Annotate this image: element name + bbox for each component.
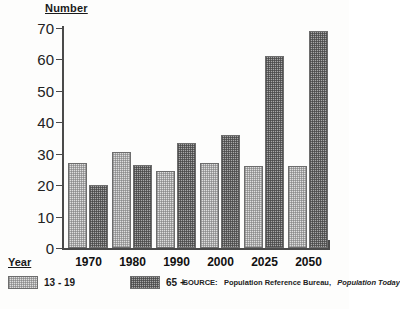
x-axis-line	[62, 248, 330, 250]
x-axis-tick-label: 1990	[155, 255, 199, 269]
y-axis-tick-label: 40	[37, 114, 54, 131]
source-publisher: Population Reference Bureau,	[224, 278, 331, 287]
x-axis-tick-label: 1970	[67, 255, 111, 269]
y-axis-tick	[56, 248, 63, 249]
x-axis-title: Year	[8, 256, 31, 268]
y-axis-tick-label: 10	[37, 208, 54, 225]
x-axis-tick-label: 2050	[287, 255, 331, 269]
y-axis-title: Number	[45, 2, 88, 14]
bar-group	[244, 28, 285, 248]
y-axis-tick-label: 30	[37, 145, 54, 162]
legend-item[interactable]: 13 - 19	[8, 276, 75, 289]
legend-item[interactable]: 65 +	[130, 276, 186, 289]
y-axis-tick-label: 60	[37, 51, 54, 68]
y-axis-tick	[56, 122, 63, 123]
bar[interactable]	[177, 143, 196, 248]
y-axis-tick-label: 20	[37, 177, 54, 194]
source-publication: Population Today	[337, 278, 400, 287]
bar-group	[68, 28, 109, 248]
bar[interactable]	[112, 152, 131, 248]
bar-group	[200, 28, 241, 248]
y-axis-tick	[56, 185, 63, 186]
bar[interactable]	[309, 31, 328, 248]
bar[interactable]	[89, 185, 108, 248]
y-axis-tick-label: 0	[46, 240, 54, 257]
plot-area: 010203040506070	[62, 26, 330, 250]
bar-group	[288, 28, 329, 248]
legend-label: 13 - 19	[44, 277, 75, 288]
light-stipple-swatch	[8, 276, 38, 289]
y-axis-tick	[56, 154, 63, 155]
bar[interactable]	[200, 163, 219, 248]
bar[interactable]	[221, 135, 240, 248]
bar[interactable]	[288, 166, 307, 248]
y-axis-tick-label: 70	[37, 20, 54, 37]
y-axis-tick-label: 50	[37, 82, 54, 99]
y-axis-tick	[56, 217, 63, 218]
bar-group	[112, 28, 153, 248]
bar[interactable]	[265, 56, 284, 248]
source-prefix: SOURCE:	[183, 278, 218, 287]
y-axis-tick	[56, 91, 63, 92]
x-axis-tick-label: 2000	[199, 255, 243, 269]
x-axis-tick-label: 2025	[243, 255, 287, 269]
bar[interactable]	[68, 163, 87, 248]
bar[interactable]	[133, 165, 152, 248]
source-note: SOURCE: Population Reference Bureau, Pop…	[183, 278, 400, 287]
y-axis-tick	[56, 59, 63, 60]
dark-stipple-swatch	[130, 276, 160, 289]
bar[interactable]	[156, 171, 175, 248]
bar-group	[156, 28, 197, 248]
y-axis-tick	[56, 28, 63, 29]
bar[interactable]	[244, 166, 263, 248]
x-axis-tick-label: 1980	[111, 255, 155, 269]
